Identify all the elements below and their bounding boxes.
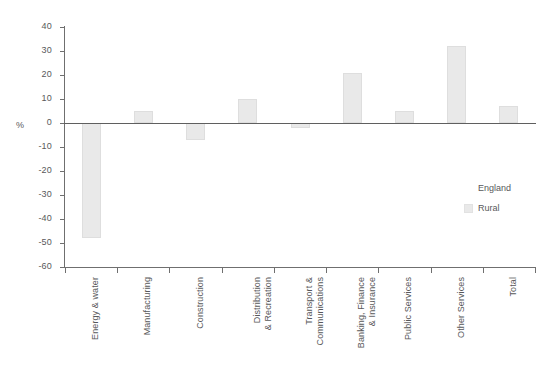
y-axis-tick-label: -20: [26, 166, 52, 175]
legend-label: Rural: [478, 202, 500, 214]
y-axis-unit-label: %: [16, 121, 24, 130]
x-axis-tick: [378, 268, 379, 273]
x-axis-category-label: Transport & Communications: [304, 277, 318, 367]
x-axis-category-label: Construction: [195, 277, 209, 367]
y-axis-tick-label: -10: [26, 142, 52, 151]
y-axis-tick-label: 40: [26, 22, 52, 31]
bar: [343, 73, 362, 123]
x-axis-tick: [222, 268, 223, 273]
bar: [447, 46, 466, 123]
legend-entry: Rural: [464, 202, 511, 214]
legend-title: England: [478, 182, 511, 194]
x-axis-tick: [65, 268, 66, 273]
cropped-header-strip: [60, 0, 360, 6]
x-axis-tick: [483, 268, 484, 273]
y-axis-tick-label: -30: [26, 190, 52, 199]
x-axis-tick: [117, 268, 118, 273]
zero-baseline: [64, 123, 536, 124]
bar: [238, 99, 257, 123]
x-axis-category-label: Manufacturing: [142, 277, 156, 367]
bar: [186, 123, 205, 140]
bar: [134, 111, 153, 123]
x-axis-category-label: Other Services: [456, 277, 470, 367]
bar: [499, 106, 518, 123]
x-axis-tick: [535, 268, 536, 273]
x-axis-tick: [431, 268, 432, 273]
x-axis-line: [64, 267, 536, 268]
x-axis-category-label: Public Services: [403, 277, 417, 367]
legend-swatch-icon: [464, 204, 473, 213]
x-axis-category-label: Total: [508, 277, 522, 367]
x-axis-category-label: Energy & water: [90, 277, 104, 367]
chart-legend: England Rural: [478, 182, 511, 214]
y-axis-tick-label: -40: [26, 214, 52, 223]
legend-entries: Rural: [478, 202, 511, 214]
y-axis-tick-label: 10: [26, 94, 52, 103]
bar-chart: % 403020100-10-20-30-40-50-60 Energy & w…: [0, 0, 551, 367]
x-axis-tick: [326, 268, 327, 273]
y-axis-tick-label: 20: [26, 70, 52, 79]
x-axis-category-label: Banking, Finance & Insurance: [356, 277, 370, 367]
y-axis-tick-label: -60: [26, 262, 52, 271]
bar: [82, 123, 101, 238]
bar: [395, 111, 414, 123]
y-axis-tick-label: -50: [26, 238, 52, 247]
y-axis-tick-label: 0: [26, 118, 52, 127]
y-axis-line: [64, 26, 65, 268]
x-axis-category-label: Distribution & Recreation: [252, 277, 266, 367]
x-axis-tick: [169, 268, 170, 273]
x-axis-tick: [274, 268, 275, 273]
y-axis-tick-label: 30: [26, 46, 52, 55]
